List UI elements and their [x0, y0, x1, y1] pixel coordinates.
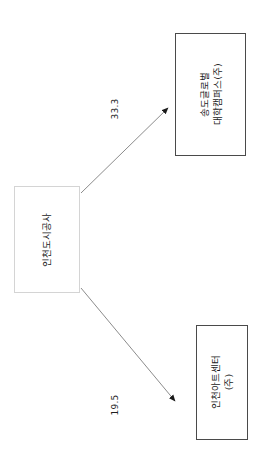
- node-subsidiary-bottom-label-line1: 인천아트센터: [210, 356, 221, 410]
- node-parent-company[interactable]: 인천도시공사: [14, 186, 80, 293]
- diagram-canvas: 인천도시공사 송도글로벌 대학캠퍼스(주) 인천아트센터 (주) 33.3 19…: [0, 0, 263, 474]
- node-subsidiary-songdo-global-campus[interactable]: 송도글로벌 대학캠퍼스(주): [175, 33, 246, 156]
- node-subsidiary-bottom-label-line2: (주): [223, 374, 234, 390]
- edge-line-to-sub-top: [81, 108, 168, 193]
- node-subsidiary-top-label-line2: 대학캠퍼스(주): [211, 64, 222, 125]
- node-subsidiary-incheon-art-center[interactable]: 인천아트센터 (주): [196, 325, 248, 440]
- node-subsidiary-bottom-label: 인천아트센터 (주): [209, 356, 235, 410]
- edge-line-to-sub-bottom: [81, 288, 175, 401]
- node-parent-company-label: 인천도시공사: [40, 212, 53, 266]
- edge-value-to-sub-bottom: 19.5: [110, 388, 120, 422]
- node-subsidiary-top-label-line1: 송도글로벌: [198, 72, 209, 117]
- edge-value-to-sub-top: 33.3: [110, 92, 120, 126]
- node-subsidiary-top-label: 송도글로벌 대학캠퍼스(주): [197, 64, 223, 125]
